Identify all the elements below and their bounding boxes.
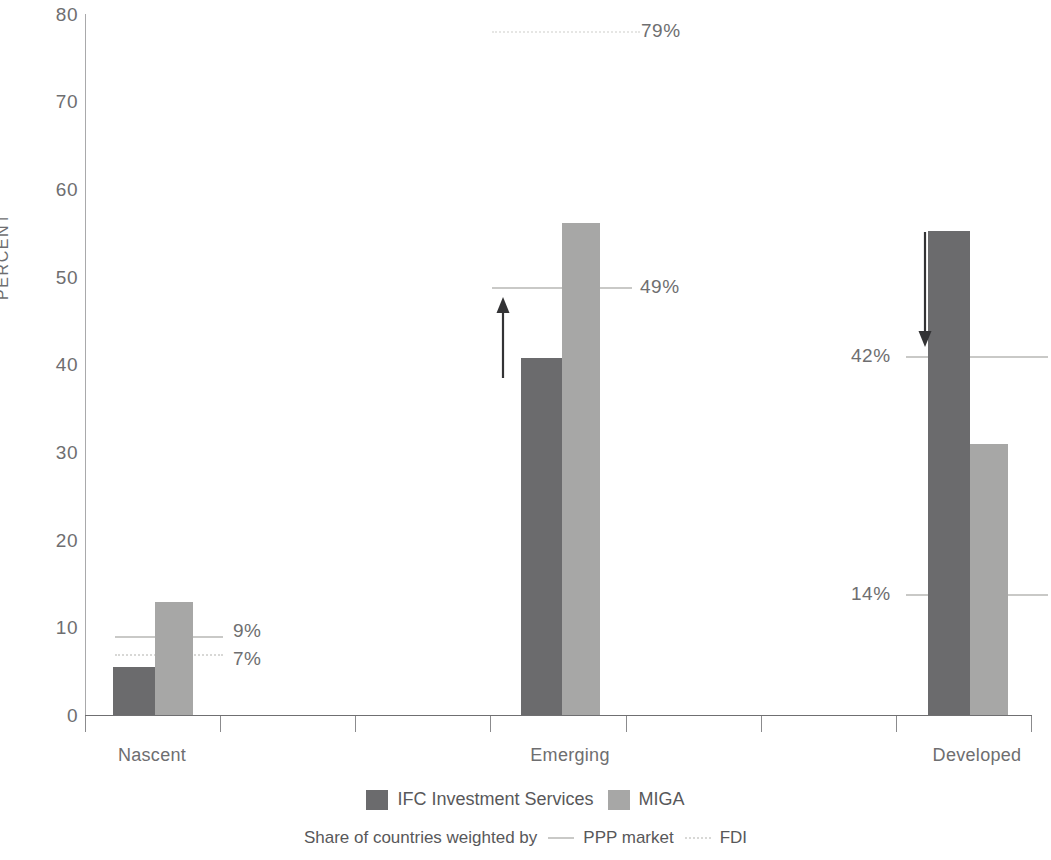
legend-label-fdi: FDI [720,828,747,848]
legend-swatch-icon-ifc [366,790,388,810]
bar-chart: 80 70 60 50 40 30 20 10 0 PERCENT 79% 49… [0,0,1051,860]
x-axis-tick [761,716,762,732]
bar-miga-developed [970,444,1008,715]
x-category-label-developed: Developed [912,745,1042,766]
legend-line-icon-fdi [685,837,711,839]
legend-line-icon-ppp [548,837,574,839]
y-axis-title: PERCENT [0,140,12,300]
reference-legend: Share of countries weighted by PPP marke… [0,828,1051,848]
reference-label-ppp-nascent: 9% [233,620,261,642]
legend-swatch-icon-miga [608,790,630,810]
legend-item-fdi: FDI [685,828,747,848]
y-tick-label-0: 0 [32,705,78,727]
legend-label-ppp: PPP market [583,828,673,848]
legend-label-ifc: IFC Investment Services [397,789,593,810]
y-tick-label-40: 40 [32,354,78,376]
y-tick-label-80: 80 [32,4,78,26]
bar-ifc-nascent [113,667,155,715]
bar-miga-emerging [562,223,600,715]
legend-label-miga: MIGA [639,789,685,810]
y-tick-label-30: 30 [32,442,78,464]
reference-legend-prefix: Share of countries weighted by [304,828,537,848]
y-tick-label-60: 60 [32,179,78,201]
y-tick-label-50: 50 [32,267,78,289]
series-legend: IFC Investment Services MIGA [0,789,1051,810]
y-tick-label-70: 70 [32,91,78,113]
x-category-label-emerging: Emerging [505,745,635,766]
down-arrow-annotation [914,232,936,348]
x-axis-tick [896,716,897,732]
reference-label-ppp-developed: 42% [851,345,891,367]
x-axis-tick [490,716,491,732]
bar-miga-nascent [155,602,193,715]
x-axis-tick [85,716,86,732]
x-category-label-nascent: Nascent [92,745,212,766]
x-axis-tick [220,716,221,732]
legend-item-miga: MIGA [608,789,685,810]
reference-label-ppp-emerging: 49% [640,276,680,298]
x-axis-tick [626,716,627,732]
reference-line-fdi-emerging [492,31,640,33]
x-axis-tick [355,716,356,732]
reference-label-fdi-emerging: 79% [641,20,681,42]
bar-ifc-emerging [521,358,562,715]
up-arrow-annotation [492,296,514,380]
x-axis-tick [1031,716,1032,732]
reference-label-fdi-developed: 14% [851,583,891,605]
y-tick-label-20: 20 [32,530,78,552]
y-axis-line [85,14,86,715]
x-axis-line [85,715,1032,716]
reference-label-fdi-nascent: 7% [233,648,261,670]
legend-item-ifc: IFC Investment Services [366,789,593,810]
legend-item-ppp: PPP market [548,828,673,848]
y-tick-label-10: 10 [32,617,78,639]
